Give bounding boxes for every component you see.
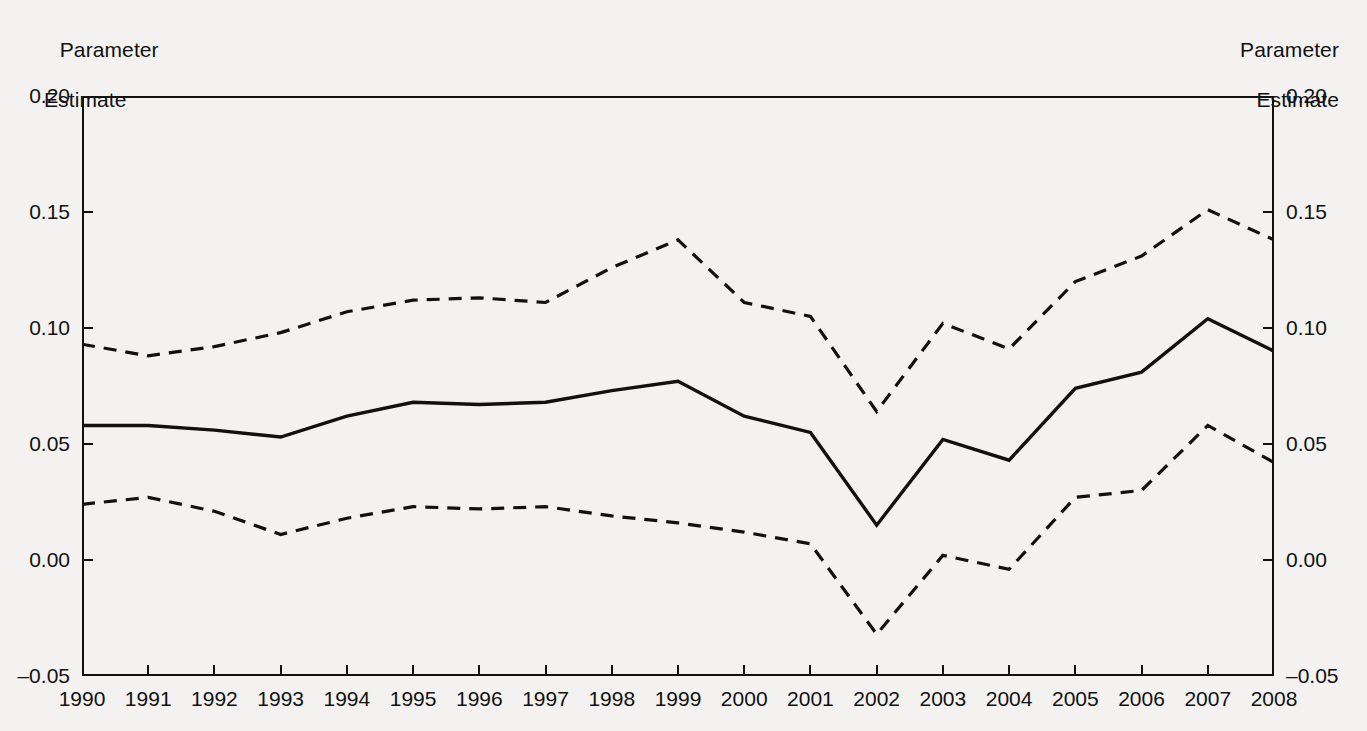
x-tick-label: 1997 [511, 688, 581, 709]
x-tick-mark [809, 665, 811, 676]
x-tick-label: 2006 [1107, 688, 1177, 709]
x-tick-label: 1995 [378, 688, 448, 709]
y-tick-label-left: 0.10 [0, 317, 70, 338]
x-tick-label: 1993 [246, 688, 316, 709]
x-tick-label: 1990 [47, 688, 117, 709]
x-tick-mark [876, 665, 878, 676]
series-line-2 [82, 425, 1274, 634]
plot-area [82, 96, 1274, 676]
chart-page: Parameter Estimate Parameter Estimate 0.… [0, 0, 1367, 731]
y-tick-mark-left [82, 443, 93, 445]
chart-lines [82, 96, 1274, 676]
y-tick-label-left: 0.05 [0, 433, 70, 454]
y-axis-title-right-line1: Parameter [1240, 38, 1339, 61]
y-tick-label-left: 0.20 [0, 85, 70, 106]
y-tick-label-left: –0.05 [0, 665, 70, 686]
x-tick-mark [1141, 665, 1143, 676]
y-axis-title-left-line1: Parameter [60, 38, 159, 61]
x-tick-label: 2005 [1040, 688, 1110, 709]
y-tick-mark-right [1263, 443, 1274, 445]
y-tick-label-left: 0.00 [0, 549, 70, 570]
x-tick-mark [545, 665, 547, 676]
x-tick-label: 1994 [312, 688, 382, 709]
x-tick-mark [412, 665, 414, 676]
y-tick-label-right: 0.20 [1286, 85, 1367, 106]
y-tick-label-right: 0.00 [1286, 549, 1367, 570]
x-tick-label: 1996 [444, 688, 514, 709]
x-tick-label: 2004 [974, 688, 1044, 709]
x-tick-label: 2000 [709, 688, 779, 709]
x-tick-mark [942, 665, 944, 676]
series-line-1 [82, 319, 1274, 525]
y-tick-label-left: 0.15 [0, 201, 70, 222]
y-tick-label-right: –0.05 [1286, 665, 1367, 686]
x-tick-label: 2003 [908, 688, 978, 709]
y-tick-mark-right [1263, 327, 1274, 329]
y-tick-mark-left [82, 327, 93, 329]
x-tick-mark [1207, 665, 1209, 676]
x-tick-mark [1074, 665, 1076, 676]
x-tick-mark [743, 665, 745, 676]
x-tick-label: 2007 [1173, 688, 1243, 709]
x-tick-mark [147, 665, 149, 676]
y-tick-mark-left [82, 211, 93, 213]
x-tick-mark [1008, 665, 1010, 676]
x-tick-label: 1992 [179, 688, 249, 709]
x-tick-label: 2001 [775, 688, 845, 709]
x-tick-label: 2002 [842, 688, 912, 709]
x-tick-mark [346, 665, 348, 676]
x-tick-mark [478, 665, 480, 676]
y-tick-label-right: 0.10 [1286, 317, 1367, 338]
x-tick-label: 1998 [577, 688, 647, 709]
x-tick-mark [677, 665, 679, 676]
y-tick-label-right: 0.05 [1286, 433, 1367, 454]
y-tick-label-right: 0.15 [1286, 201, 1367, 222]
x-tick-mark [213, 665, 215, 676]
y-tick-mark-right [1263, 211, 1274, 213]
x-tick-label: 1999 [643, 688, 713, 709]
y-tick-mark-left [82, 559, 93, 561]
x-tick-label: 1991 [113, 688, 183, 709]
x-tick-label: 2008 [1239, 688, 1309, 709]
x-tick-mark [280, 665, 282, 676]
x-tick-mark [611, 665, 613, 676]
y-tick-mark-right [1263, 559, 1274, 561]
